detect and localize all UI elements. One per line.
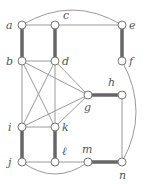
node-e [118,21,126,29]
node-label-g: g [84,101,91,114]
node-label-l: ℓ [62,145,67,158]
node-a [18,21,26,29]
node-g [84,91,92,99]
node-label-b: b [6,55,13,68]
node-label-c: c [63,9,69,22]
node-d [51,57,59,65]
node-label-k: k [62,121,69,134]
node-label-f: f [128,55,135,68]
edge-f-n [122,61,136,162]
node-b [18,57,26,65]
node-label-i: i [8,121,12,134]
node-j [18,158,26,166]
edge-d-g [55,61,88,95]
node-f [118,57,126,65]
node-n [118,158,126,166]
node-k [51,123,59,131]
node-label-j: j [5,156,12,169]
edge-a-e [22,10,122,25]
node-label-e: e [129,19,136,32]
node-label-n: n [119,169,126,182]
node-l [51,158,59,166]
graph-diagram: acebdfghikjℓmn [0,0,147,184]
node-label-h: h [108,76,115,89]
node-label-d: d [62,55,69,68]
edges [22,25,122,162]
node-label-a: a [6,19,13,32]
node-label-m: m [82,143,92,156]
node-h [118,91,126,99]
node-m [84,158,92,166]
node-i [18,123,26,131]
node-c [51,21,59,29]
